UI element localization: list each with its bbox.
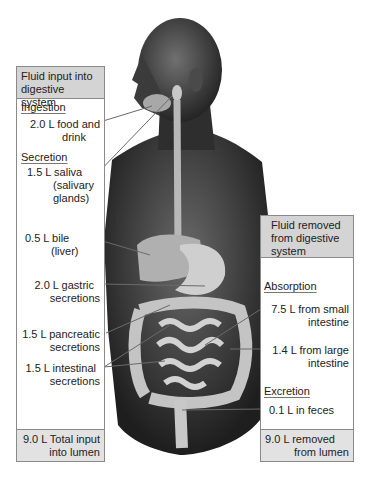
item-line: 0.5 L bile xyxy=(25,232,79,245)
header-line: from digestive xyxy=(271,232,349,245)
item-line: secretions xyxy=(25,375,100,388)
section-excretion: Excretion xyxy=(264,385,310,398)
footer-line: 9.0 L Total input xyxy=(21,433,100,446)
item-intestinal: 1.5 L intestinal secretions xyxy=(25,362,100,388)
item-gastric: 2.0 L gastric secretions xyxy=(34,279,100,305)
item-line: intestine xyxy=(271,316,349,329)
item-pancreatic: 1.5 L pancreatic secretions xyxy=(22,328,100,354)
item-bile: 0.5 L bile (liver) xyxy=(25,232,79,258)
item-line: secretions xyxy=(34,292,100,305)
item-line: 0.1 L in feces xyxy=(269,404,334,417)
section-secretion: Secretion xyxy=(21,151,67,164)
fluid-removed-box: Fluid removed from digestive system Abso… xyxy=(260,215,354,462)
section-title: Excretion xyxy=(264,385,310,397)
section-absorption: Absorption xyxy=(264,280,317,293)
total-input-footer: 9.0 L Total input into lumen xyxy=(17,429,104,461)
section-title: Secretion xyxy=(21,151,67,163)
section-title: Ingestion xyxy=(21,101,66,113)
fluid-removed-header: Fluid removed from digestive system xyxy=(261,216,353,258)
oral-cavity xyxy=(143,94,171,112)
footer-line: into lumen xyxy=(21,446,100,459)
item-food-drink: 2.0 L food and drink xyxy=(30,118,100,144)
item-line: (salivary xyxy=(27,179,94,192)
footer-line: from lumen xyxy=(265,446,349,459)
item-saliva: 1.5 L saliva (salivary glands) xyxy=(27,166,94,205)
item-line: glands) xyxy=(27,192,94,205)
footer-line: 9.0 L removed xyxy=(265,433,349,446)
item-line: 1.5 L pancreatic xyxy=(22,328,100,341)
section-title: Absorption xyxy=(264,280,317,292)
item-feces: 0.1 L in feces xyxy=(269,404,334,417)
ear-shape xyxy=(189,68,203,92)
fluid-input-header: Fluid input into digestive system xyxy=(17,67,104,99)
header-line: Fluid removed xyxy=(271,219,349,232)
digestive-fluid-balance-figure: Fluid input into digestive system Ingest… xyxy=(0,0,370,477)
total-removed-footer: 9.0 L removed from lumen xyxy=(261,429,353,461)
item-small-intestine: 7.5 L from small intestine xyxy=(271,303,349,329)
section-ingestion: Ingestion xyxy=(21,101,66,114)
item-line: secretions xyxy=(22,341,100,354)
item-line: 2.0 L gastric xyxy=(34,279,100,292)
rectum xyxy=(180,400,182,448)
salivary-gland xyxy=(172,85,182,101)
esophagus xyxy=(177,100,178,250)
item-line: (liver) xyxy=(25,245,79,258)
header-line: Fluid input into xyxy=(21,70,100,83)
item-line: 1.5 L saliva xyxy=(27,166,94,179)
item-large-intestine: 1.4 L from large intestine xyxy=(272,344,349,370)
item-line: 1.4 L from large xyxy=(272,344,349,357)
fluid-input-box: Fluid input into digestive system Ingest… xyxy=(16,66,105,462)
item-line: drink xyxy=(30,131,100,144)
item-line: 2.0 L food and xyxy=(30,118,100,131)
header-line: system xyxy=(271,245,349,258)
item-line: 7.5 L from small xyxy=(271,303,349,316)
item-line: intestine xyxy=(272,357,349,370)
item-line: 1.5 L intestinal xyxy=(25,362,100,375)
